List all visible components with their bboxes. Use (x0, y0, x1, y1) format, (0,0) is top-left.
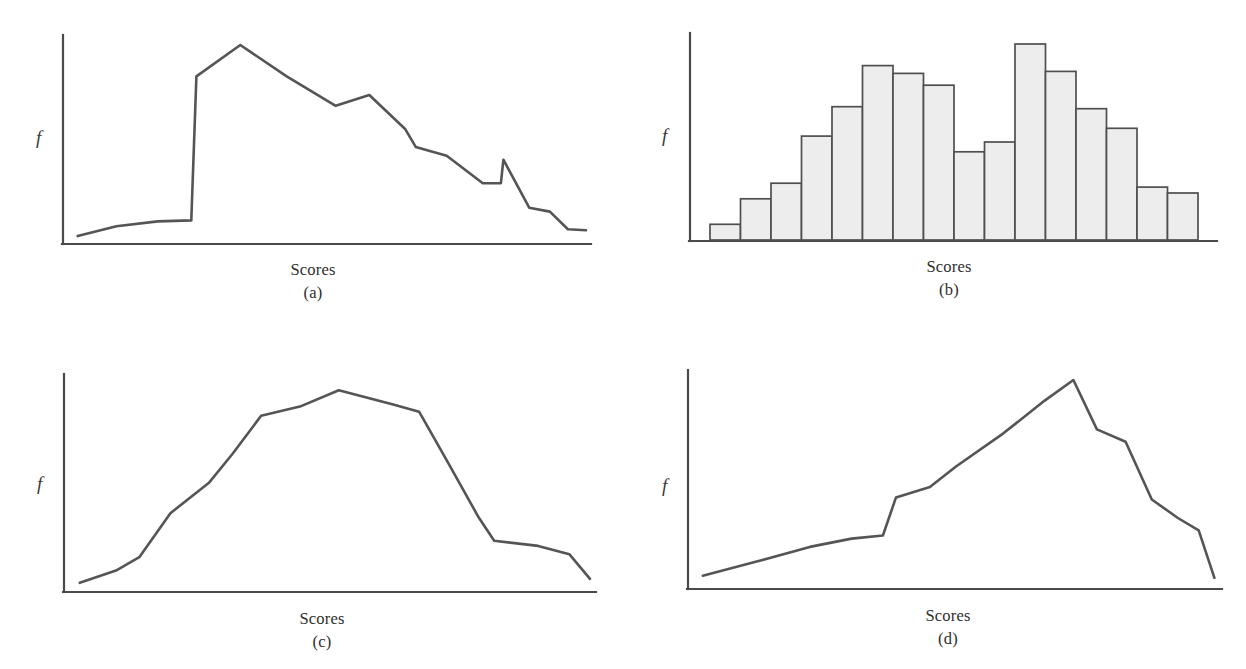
histogram-bar (893, 73, 924, 240)
panel-a-plot (0, 0, 623, 270)
panel-d-curve (703, 380, 1215, 578)
panel-a: f Scores (a) (0, 0, 623, 320)
panel-b-caption: Scores (b) (849, 256, 1049, 302)
panel-c-plot (0, 348, 623, 610)
histogram-bar (954, 152, 985, 240)
panel-c-caption-id: (c) (222, 631, 422, 654)
panel-d-y-axis-label: f (662, 476, 667, 495)
figure-sheet: f Scores (a) f Scores (b) (0, 0, 1246, 669)
panel-b-y-axis-label: f (662, 126, 667, 145)
panel-b-plot (623, 0, 1246, 270)
panel-d-svg (623, 348, 1246, 610)
panel-a-y-axis-label: f (36, 128, 41, 147)
panel-d-plot (623, 348, 1246, 610)
histogram-bar (985, 142, 1016, 240)
histogram-bar (710, 224, 741, 240)
panel-a-xlabel: Scores (213, 259, 413, 282)
panel-b-bars (710, 44, 1198, 240)
panel-d-caption-id: (d) (848, 628, 1048, 651)
histogram-bar (1076, 109, 1107, 240)
histogram-bar (863, 66, 894, 240)
panel-a-caption: Scores (a) (213, 259, 413, 305)
histogram-bar (1168, 193, 1199, 240)
histogram-bar (741, 199, 772, 240)
panel-c-axes (63, 374, 596, 592)
histogram-bar (1107, 128, 1138, 240)
histogram-bar (924, 85, 955, 240)
panel-b-svg (623, 0, 1246, 270)
panel-c-curve (80, 390, 590, 583)
histogram-bar (802, 136, 833, 240)
histogram-bar (1015, 44, 1046, 240)
panel-c: f Scores (c) (0, 348, 623, 669)
histogram-bar (1137, 187, 1168, 240)
histogram-bar (1046, 71, 1077, 240)
panel-b-caption-id: (b) (849, 279, 1049, 302)
histogram-bar (771, 183, 802, 240)
panel-a-svg (0, 0, 623, 270)
panel-d-xlabel: Scores (848, 605, 1048, 628)
panel-d-caption: Scores (d) (848, 605, 1048, 651)
panel-a-curve (78, 45, 586, 236)
panel-b: f Scores (b) (623, 0, 1246, 320)
panel-c-y-axis-label: f (37, 474, 42, 493)
panel-a-caption-id: (a) (213, 282, 413, 305)
panel-a-axes (62, 35, 591, 244)
panel-b-xlabel: Scores (849, 256, 1049, 279)
histogram-bar (832, 107, 863, 240)
panel-d: f Scores (d) (623, 348, 1246, 669)
panel-c-caption: Scores (c) (222, 608, 422, 654)
panel-c-svg (0, 348, 623, 610)
panel-c-xlabel: Scores (222, 608, 422, 631)
